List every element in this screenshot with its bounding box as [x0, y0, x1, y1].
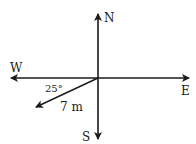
compass-diagram: N E W S 25° 7 m	[0, 0, 196, 144]
north-label: N	[104, 11, 115, 25]
magnitude-label: 7 m	[60, 100, 83, 114]
south-label: S	[82, 130, 90, 144]
west-label: W	[10, 61, 23, 75]
angle-label: 25°	[45, 83, 63, 94]
east-label: E	[181, 84, 190, 98]
